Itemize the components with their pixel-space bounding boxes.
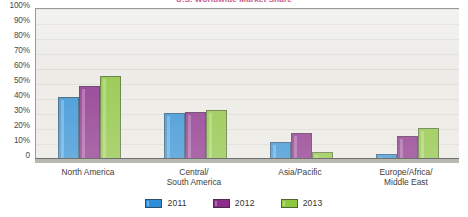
x-axis-category-line: Europe/Africa/	[353, 167, 459, 177]
legend-label: 2012	[235, 198, 255, 208]
bar-2011[interactable]	[164, 113, 185, 158]
bar-2013[interactable]	[418, 128, 439, 158]
legend-swatch-icon	[213, 199, 230, 208]
x-axis-category-line: South America	[141, 177, 247, 187]
y-axis-tick-label: 100%	[9, 2, 30, 10]
y-axis: 100%90%80%70%60%50%40%30%20%10%0	[0, 6, 33, 158]
plot-area	[35, 8, 459, 158]
legend-label: 2013	[303, 198, 323, 208]
legend-swatch-icon	[281, 199, 298, 208]
y-axis-tick-label: 30%	[14, 107, 30, 115]
bar-group	[36, 9, 142, 158]
x-axis-category-line: Asia/Pacific	[247, 167, 353, 177]
y-axis-tick-label: 90%	[14, 17, 30, 25]
x-axis-category-line: Middle East	[353, 177, 459, 187]
x-axis-labels: North AmericaCentral/South AmericaAsia/P…	[35, 167, 459, 195]
bar-group-bars	[248, 9, 354, 158]
x-axis-category-label: Asia/Pacific	[247, 167, 353, 177]
y-axis-tick-label: 70%	[14, 47, 30, 55]
bar-2012[interactable]	[185, 112, 206, 159]
bar-group-bars	[142, 9, 248, 158]
x-axis-category-line: North America	[35, 167, 141, 177]
y-axis-tick-label: 80%	[14, 32, 30, 40]
legend-item-2011[interactable]: 2011	[145, 198, 186, 208]
bars-layer	[36, 9, 459, 158]
y-axis-tick-label: 0	[26, 152, 30, 160]
bar-2012[interactable]	[397, 136, 418, 159]
y-axis-tick-label: 20%	[14, 122, 30, 130]
bar-group	[354, 9, 459, 158]
legend-item-2012[interactable]: 2012	[213, 198, 255, 208]
bar-group	[142, 9, 248, 158]
chart-legend: 201120122013	[0, 198, 468, 208]
legend-swatch-icon	[145, 199, 162, 208]
x-axis-category-label: North America	[35, 167, 141, 177]
x-axis-category-label: Central/South America	[141, 167, 247, 187]
bar-2013[interactable]	[100, 76, 121, 159]
bar-group	[248, 9, 354, 158]
bar-2013[interactable]	[206, 110, 227, 158]
x-axis-baseline	[35, 158, 459, 163]
bar-chart-figure: U.S. Worldwide Market Share 100%90%80%70…	[0, 0, 468, 217]
y-axis-tick-label: 10%	[14, 137, 30, 145]
bar-2011[interactable]	[58, 97, 79, 159]
bar-2012[interactable]	[291, 133, 312, 159]
bar-2011[interactable]	[270, 142, 291, 159]
y-axis-tick-label: 40%	[14, 92, 30, 100]
y-axis-tick-label: 50%	[14, 77, 30, 85]
bar-2012[interactable]	[79, 86, 100, 158]
legend-item-2013[interactable]: 2013	[281, 198, 323, 208]
x-axis-category-line: Central/	[141, 167, 247, 177]
x-axis-category-label: Europe/Africa/Middle East	[353, 167, 459, 187]
legend-label: 2011	[167, 198, 186, 208]
bar-group-bars	[354, 9, 459, 158]
bar-group-bars	[36, 9, 142, 158]
chart-title: U.S. Worldwide Market Share	[0, 0, 468, 4]
y-axis-tick-label: 60%	[14, 62, 30, 70]
